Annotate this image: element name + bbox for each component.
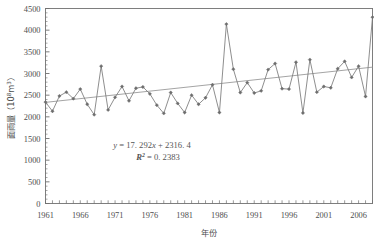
- y-tick-label: 2500: [24, 91, 41, 100]
- y-axis-title-unit-open: （10: [6, 96, 16, 114]
- y-tick-label: 3000: [24, 70, 41, 79]
- x-tick-label: 1996: [281, 211, 298, 220]
- x-tick-label: 1991: [246, 211, 263, 220]
- rainfall-trend-chart: 050010001500200025003000350040004500 196…: [0, 0, 374, 241]
- y-tick-label: 2000: [24, 113, 41, 122]
- y-axis-title-unit-m: m: [6, 85, 16, 93]
- regression-equation: y = 17. 292x + 2316. 4: [112, 140, 191, 150]
- y-tick-label: 1000: [24, 156, 41, 165]
- equation-tail: + 2316. 4: [156, 140, 192, 150]
- r2-value: = 0. 2383: [145, 152, 180, 162]
- y-tick-label: 4000: [24, 26, 41, 35]
- x-tick-label: 1976: [141, 211, 158, 220]
- y-tick-label: 0: [36, 200, 40, 209]
- x-tick-label: 1961: [37, 211, 54, 220]
- x-tick-label: 1981: [176, 211, 193, 220]
- x-tick-label: 1986: [211, 211, 228, 220]
- equation-middle: = 17. 292: [117, 140, 152, 150]
- y-tick-label: 500: [28, 178, 41, 187]
- x-tick-label: 2001: [315, 211, 332, 220]
- y-tick-label: 4500: [24, 5, 41, 14]
- y-axis-title-unit-close: ）: [6, 73, 16, 81]
- regression-r-squared: R2 = 0. 2383: [135, 152, 180, 162]
- x-tick-label: 1971: [107, 211, 124, 220]
- x-axis-title: 年份: [201, 228, 217, 238]
- y-tick-label: 3500: [24, 48, 41, 57]
- x-tick-label: 1966: [72, 211, 89, 220]
- y-axis-title-main: 面雨量: [6, 115, 16, 139]
- y-tick-label: 1500: [24, 135, 41, 144]
- chart-canvas: 050010001500200025003000350040004500 196…: [0, 0, 374, 241]
- x-tick-label: 2006: [350, 211, 367, 220]
- chart-background: [0, 0, 374, 241]
